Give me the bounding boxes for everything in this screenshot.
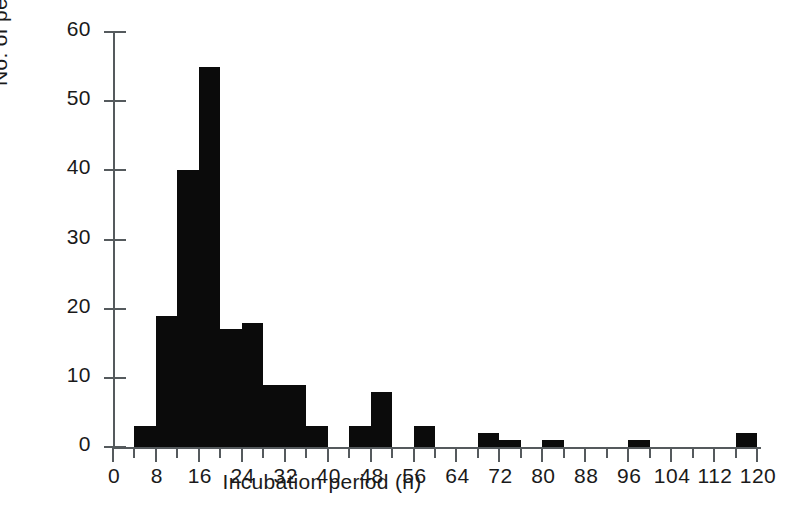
plot-area: 0102030405060 08162432404856647280889610… — [113, 32, 757, 447]
caption-fragment: l — [0, 410, 12, 436]
x-tick-major — [627, 448, 629, 462]
y-tick-label: 0 — [45, 432, 91, 456]
x-tick-major — [112, 448, 114, 462]
y-tick-label: 20 — [45, 294, 91, 318]
x-axis-line — [113, 447, 761, 449]
histogram-bar — [478, 433, 499, 447]
x-tick-minor — [477, 448, 479, 458]
x-tick-minor — [133, 448, 135, 458]
y-axis-title-label: No. of people — [0, 0, 11, 86]
x-tick-minor — [735, 448, 737, 458]
histogram-figure: s x l y g No. of people 0102030405060 08… — [0, 0, 789, 524]
histogram-bar — [134, 426, 155, 447]
y-tick-label: 10 — [45, 363, 91, 387]
x-tick-major — [670, 448, 672, 462]
x-tick-minor — [563, 448, 565, 458]
x-tick-minor — [649, 448, 651, 458]
histogram-bar — [349, 426, 370, 447]
x-tick-minor — [305, 448, 307, 458]
x-tick-major — [370, 448, 372, 462]
y-tick-label: 30 — [45, 225, 91, 249]
x-tick-minor — [391, 448, 393, 458]
y-axis-title: No. of people — [0, 0, 12, 86]
histogram-bar — [628, 440, 649, 447]
x-tick-minor — [176, 448, 178, 458]
x-tick-major — [498, 448, 500, 462]
x-tick-minor — [348, 448, 350, 458]
y-tick-label: 60 — [45, 17, 91, 41]
histogram-bar — [306, 426, 327, 447]
x-tick-major — [413, 448, 415, 462]
histogram-bar — [242, 323, 263, 448]
x-tick-major — [284, 448, 286, 462]
x-tick-minor — [606, 448, 608, 458]
caption-fragment: y — [0, 436, 12, 462]
x-tick-major — [198, 448, 200, 462]
x-tick-minor — [262, 448, 264, 458]
x-tick-minor — [520, 448, 522, 458]
x-tick-major — [541, 448, 543, 462]
x-axis-title: Incubation period (h) — [0, 470, 644, 494]
y-tick-label: 50 — [45, 86, 91, 110]
histogram-bars — [113, 32, 757, 447]
x-tick-minor — [219, 448, 221, 458]
x-tick-major — [241, 448, 243, 462]
caption-fragment: x — [0, 384, 12, 410]
x-tick-major — [327, 448, 329, 462]
histogram-bar — [156, 316, 177, 447]
x-tick-major — [155, 448, 157, 462]
x-tick-minor — [692, 448, 694, 458]
histogram-bar — [285, 385, 306, 447]
x-axis-title-label: Incubation period (h) — [223, 470, 422, 493]
y-tick-label: 40 — [45, 155, 91, 179]
x-tick-label: 120 — [728, 464, 788, 488]
x-tick-minor — [434, 448, 436, 458]
histogram-bar — [414, 426, 435, 447]
x-tick-major — [756, 448, 758, 462]
histogram-bar — [220, 329, 241, 447]
histogram-bar — [736, 433, 757, 447]
histogram-bar — [499, 440, 520, 447]
x-tick-major — [455, 448, 457, 462]
x-tick-major — [713, 448, 715, 462]
histogram-bar — [177, 170, 198, 447]
x-tick-major — [584, 448, 586, 462]
histogram-bar — [371, 392, 392, 447]
histogram-bar — [263, 385, 284, 447]
histogram-bar — [199, 67, 220, 447]
histogram-bar — [542, 440, 563, 447]
caption-fragment: s — [0, 358, 12, 384]
